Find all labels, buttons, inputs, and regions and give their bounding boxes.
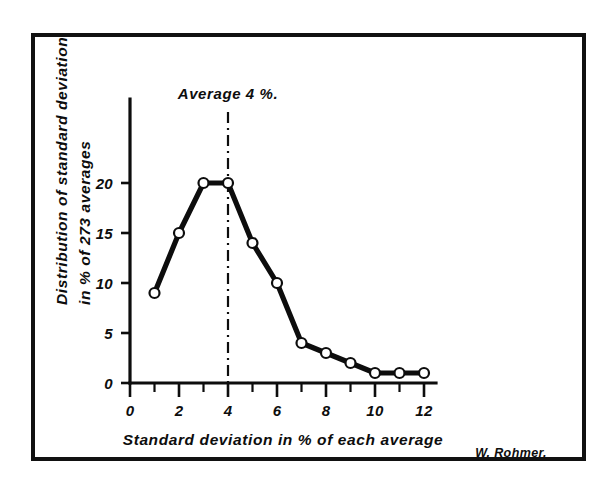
data-point (248, 238, 258, 248)
x-tick-label-6: 6 (273, 402, 282, 419)
x-tick-labels: 0 2 4 6 8 10 12 (126, 402, 433, 419)
data-point (223, 178, 233, 188)
data-point (297, 338, 307, 348)
y-tick-labels: 0 5 10 15 20 (95, 175, 114, 392)
data-series-line (155, 183, 425, 373)
x-tick-label-10: 10 (366, 402, 384, 419)
y-tick-label-15: 15 (96, 225, 114, 242)
data-point (419, 368, 429, 378)
plot-area: 0 5 10 15 20 (35, 37, 590, 465)
x-tick-marks-major (130, 383, 424, 397)
data-point (199, 178, 209, 188)
x-tick-label-12: 12 (415, 402, 433, 419)
y-tick-label-20: 20 (95, 175, 114, 192)
y-axis-title-line2: in % of 273 averages (76, 141, 93, 306)
data-point (321, 348, 331, 358)
x-tick-label-8: 8 (322, 402, 331, 419)
data-point (174, 228, 184, 238)
y-axis-title-line1: Distribution of standard deviations (53, 37, 70, 305)
data-point (150, 288, 160, 298)
x-axis-title: Standard deviation in % of each average (123, 431, 444, 448)
x-tick-label-2: 2 (174, 402, 184, 419)
x-tick-label-4: 4 (223, 402, 233, 419)
y-tick-label-10: 10 (96, 275, 114, 292)
figure-frame: 0 5 10 15 20 (31, 33, 586, 461)
y-tick-label-5: 5 (104, 325, 113, 342)
chart-svg: 0 5 10 15 20 (35, 37, 590, 465)
average-annotation-label: Average 4 %. (177, 85, 279, 102)
data-point (370, 368, 380, 378)
data-point (272, 278, 282, 288)
y-tick-label-0: 0 (104, 375, 113, 392)
y-axis-title: Distribution of standard deviations in %… (53, 37, 93, 305)
data-point (395, 368, 405, 378)
author-signature: W. Rohmer. (475, 446, 547, 460)
x-tick-label-0: 0 (126, 402, 135, 419)
data-point (346, 358, 356, 368)
